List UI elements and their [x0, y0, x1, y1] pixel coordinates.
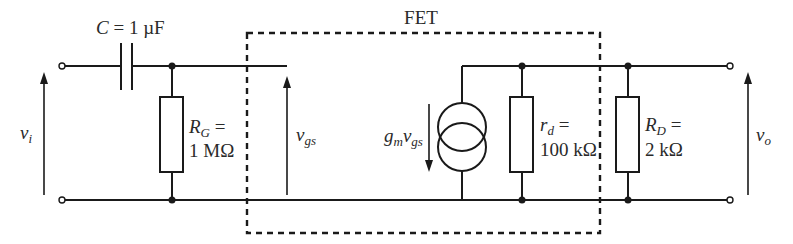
- junction-dot: [169, 63, 176, 70]
- load-resistor-icon: [616, 66, 639, 200]
- capacitor-icon: [121, 43, 132, 90]
- circuit-diagram: FET C = 1 µF RG = 1 MΩ vi vgs: [0, 0, 793, 244]
- current-source-icon: [438, 66, 486, 200]
- vgs-label: vgs: [296, 124, 316, 148]
- current-direction-arrow-icon: [425, 104, 433, 172]
- rg-label: RG =: [188, 116, 225, 140]
- capacitor-label: C = 1 µF: [96, 17, 165, 38]
- rg-value: 1 MΩ: [189, 140, 234, 161]
- vi-label: vi: [20, 122, 32, 146]
- output-terminal-bottom: [727, 197, 733, 203]
- vi-arrow-icon: [40, 72, 48, 195]
- rg-resistor-icon: [160, 66, 183, 200]
- rd-value: 100 kΩ: [540, 139, 597, 160]
- input-terminal-top: [59, 63, 65, 69]
- junction-dot: [625, 63, 632, 70]
- junction-dot: [519, 63, 526, 70]
- junction-dot: [519, 197, 526, 204]
- load-resistor-label: RD =: [644, 114, 681, 138]
- fet-label: FET: [404, 7, 438, 28]
- junction-dot: [625, 197, 632, 204]
- load-resistor-value: 2 kΩ: [645, 139, 683, 160]
- vgs-arrow-icon: [283, 76, 291, 195]
- rd-resistor-icon: [510, 66, 533, 200]
- current-source-label: gmvgs: [384, 125, 423, 149]
- vo-arrow-icon: [744, 72, 752, 195]
- rd-label: rd =: [540, 114, 569, 138]
- vo-label: vo: [756, 124, 771, 148]
- junction-dot: [169, 197, 176, 204]
- input-terminal-bottom: [59, 197, 65, 203]
- output-terminal-top: [727, 63, 733, 69]
